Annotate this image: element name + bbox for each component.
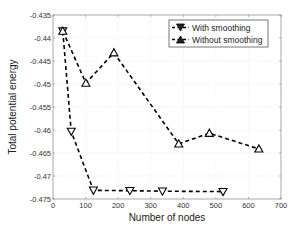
x-tick-label: 700 — [275, 201, 288, 210]
legend: With smoothing Without smoothing — [169, 20, 268, 47]
series-with-smoothing — [59, 28, 227, 196]
x-tick-label: 0 — [51, 201, 55, 210]
y-tick-label: -0.46 — [34, 126, 51, 135]
x-axis-label: Number of nodes — [129, 212, 206, 223]
y-tick-label: -0.435 — [30, 11, 51, 20]
y-tick-label: -0.44 — [34, 34, 51, 43]
triangle-down-marker — [89, 187, 97, 194]
y-tick-label: -0.475 — [30, 195, 51, 204]
x-tick-label: 500 — [210, 201, 223, 210]
triangle-up-marker — [110, 49, 118, 56]
x-tick-label: 600 — [242, 201, 255, 210]
triangle-up-marker — [205, 129, 213, 136]
triangle-down-marker — [67, 128, 75, 135]
y-tick-label: -0.465 — [30, 149, 51, 158]
y-tick-label: -0.45 — [34, 80, 51, 89]
y-tick-label: -0.47 — [34, 172, 51, 181]
line-chart: 0100200300400500600700-0.435-0.44-0.445-… — [0, 0, 299, 233]
y-axis-label: Total potential energy — [7, 59, 18, 154]
triangle-up-marker — [255, 145, 263, 152]
x-tick-label: 400 — [177, 201, 190, 210]
x-tick-label: 100 — [79, 201, 92, 210]
legend-label-without-smoothing: Without smoothing — [192, 35, 263, 45]
triangle-down-marker — [158, 188, 166, 195]
y-tick-label: -0.445 — [30, 57, 51, 66]
x-tick-label: 300 — [144, 201, 157, 210]
triangle-up-marker — [82, 79, 90, 86]
data-series — [59, 27, 263, 196]
legend-label-with-smoothing: With smoothing — [192, 23, 251, 33]
y-tick-label: -0.455 — [30, 103, 51, 112]
x-tick-label: 200 — [112, 201, 125, 210]
